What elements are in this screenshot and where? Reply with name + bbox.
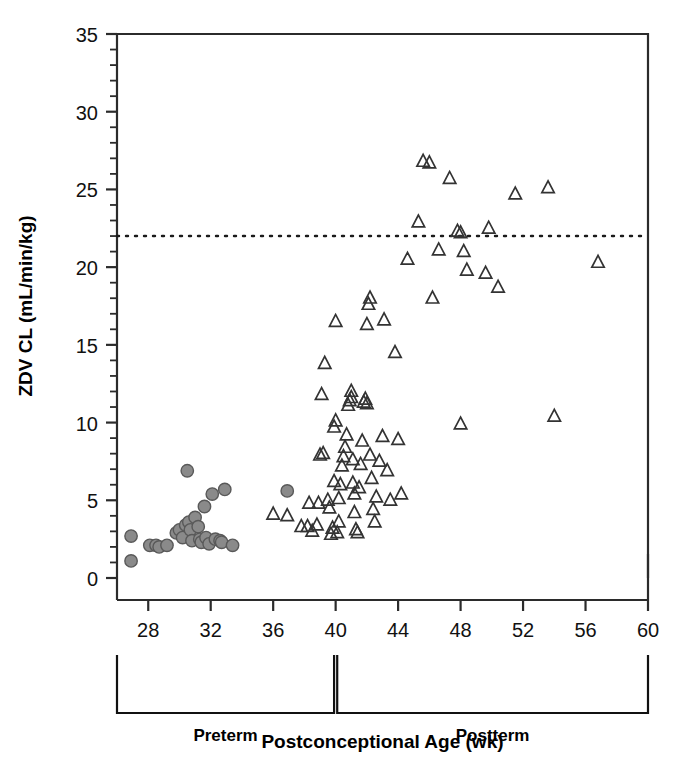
data-point bbox=[206, 488, 218, 500]
x-axis-title: Postconceptional Age (wk) bbox=[261, 731, 503, 752]
data-point bbox=[333, 515, 345, 527]
data-point bbox=[376, 429, 388, 441]
data-point bbox=[370, 490, 382, 502]
x-axis-tick-label: 32 bbox=[200, 619, 222, 641]
data-point bbox=[125, 555, 137, 567]
data-point bbox=[433, 243, 445, 255]
data-point bbox=[267, 507, 279, 519]
data-point bbox=[192, 521, 204, 533]
group-bracket-label: Preterm bbox=[193, 726, 257, 745]
data-point bbox=[368, 515, 380, 527]
data-point bbox=[412, 215, 424, 227]
data-point bbox=[548, 409, 560, 421]
x-axis-tick-label: 48 bbox=[449, 619, 471, 641]
y-axis-tick-label: 0 bbox=[87, 568, 98, 590]
data-point bbox=[281, 485, 293, 497]
data-point bbox=[125, 530, 137, 542]
data-point bbox=[161, 539, 173, 551]
x-axis-tick-label: 36 bbox=[262, 619, 284, 641]
data-point bbox=[340, 428, 352, 440]
x-axis-tick-label: 56 bbox=[574, 619, 596, 641]
data-point bbox=[592, 255, 604, 267]
scatter-plot-figure: 05101520253035283236404448525660PretermP… bbox=[0, 0, 692, 761]
data-point bbox=[443, 171, 455, 183]
y-axis-tick-label: 15 bbox=[76, 335, 98, 357]
data-point bbox=[181, 465, 193, 477]
data-point bbox=[479, 266, 491, 278]
y-axis-tick-label: 30 bbox=[76, 102, 98, 124]
x-axis-tick-label: 60 bbox=[637, 619, 659, 641]
data-point bbox=[226, 539, 238, 551]
x-axis-tick-label: 52 bbox=[512, 619, 534, 641]
data-point bbox=[492, 280, 504, 292]
data-point bbox=[315, 388, 327, 400]
data-point bbox=[389, 346, 401, 358]
y-axis-tick-label: 20 bbox=[76, 257, 98, 279]
data-point bbox=[542, 181, 554, 193]
data-point bbox=[333, 492, 345, 504]
data-point bbox=[461, 263, 473, 275]
data-point bbox=[458, 245, 470, 257]
group-bracket bbox=[117, 655, 334, 713]
data-point bbox=[319, 356, 331, 368]
y-axis-title: ZDV CL (mL/min/kg) bbox=[15, 215, 36, 396]
data-point bbox=[348, 506, 360, 518]
data-point bbox=[392, 433, 404, 445]
x-axis-tick-label: 44 bbox=[387, 619, 409, 641]
y-axis-tick-label: 25 bbox=[76, 179, 98, 201]
series-postterm bbox=[267, 154, 604, 539]
data-point bbox=[426, 291, 438, 303]
x-axis-tick-label: 28 bbox=[137, 619, 159, 641]
plot-frame bbox=[117, 34, 648, 578]
y-axis-tick-label: 10 bbox=[76, 413, 98, 435]
data-point bbox=[367, 503, 379, 515]
data-point bbox=[483, 221, 495, 233]
y-axis-tick-label: 5 bbox=[87, 490, 98, 512]
data-point bbox=[361, 318, 373, 330]
x-axis-tick-label: 40 bbox=[325, 619, 347, 641]
data-point bbox=[364, 448, 376, 460]
data-point bbox=[329, 314, 341, 326]
data-point bbox=[509, 187, 521, 199]
data-point bbox=[295, 520, 307, 532]
data-point bbox=[219, 483, 231, 495]
group-bracket bbox=[337, 655, 648, 713]
data-point bbox=[401, 252, 413, 264]
data-point bbox=[365, 471, 377, 483]
data-point bbox=[395, 487, 407, 499]
chart-canvas: 05101520253035283236404448525660PretermP… bbox=[0, 0, 692, 761]
data-point bbox=[198, 500, 210, 512]
data-point bbox=[356, 434, 368, 446]
data-point bbox=[281, 509, 293, 521]
data-point bbox=[378, 313, 390, 325]
y-axis-tick-label: 35 bbox=[76, 24, 98, 46]
data-point bbox=[454, 417, 466, 429]
data-point bbox=[339, 440, 351, 452]
